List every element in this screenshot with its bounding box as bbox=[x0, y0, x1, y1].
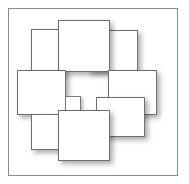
tile-top-center[interactable] bbox=[58, 20, 110, 72]
diagram-canvas bbox=[0, 0, 189, 184]
tile-bottom-center[interactable] bbox=[58, 110, 110, 161]
tile-middle-left[interactable] bbox=[17, 70, 66, 115]
